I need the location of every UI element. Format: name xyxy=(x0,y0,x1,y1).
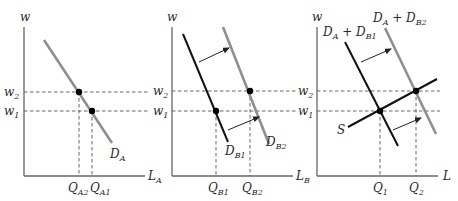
shift-arrow-lower xyxy=(228,117,259,130)
panel-total-market: w L w2 w1 Q1 Q2 DA + DB1 DA + DB2 S xyxy=(298,10,451,197)
quantity-label-qa1: QA1 xyxy=(90,181,111,197)
curve-label-db1: DB1 xyxy=(224,144,246,160)
equilibrium-point-b1 xyxy=(213,108,219,114)
y-axis-label: w xyxy=(312,10,323,24)
wage-label-w1: w1 xyxy=(153,104,168,120)
quantity-label-qb2: QB2 xyxy=(242,181,263,197)
curve-label-s: S xyxy=(337,123,345,137)
panel-sector-b: w LB w2 w1 QB1 QB2 DB1 DB2 xyxy=(153,10,310,197)
shift-arrow-upper xyxy=(361,49,391,62)
equilibrium-point-2 xyxy=(76,89,82,95)
equilibrium-point-b2 xyxy=(247,88,253,94)
demand-curve-db2 xyxy=(223,27,269,144)
x-axis-label: LA xyxy=(147,169,162,185)
equilibrium-point-1 xyxy=(89,108,95,114)
curve-label-db2: DB2 xyxy=(265,135,287,151)
x-axis-label: L xyxy=(442,169,451,183)
x-axis-label: LB xyxy=(295,169,310,185)
quantity-label-qb1: QB1 xyxy=(208,181,229,197)
curve-label-da-db2: DA + DB2 xyxy=(372,11,427,27)
quantity-label-qa2: QA2 xyxy=(68,181,89,197)
wage-label-w2: w2 xyxy=(153,84,168,100)
equilibrium-point-2 xyxy=(413,88,419,94)
equilibrium-point-1 xyxy=(377,108,383,114)
y-axis-label: w xyxy=(167,10,178,24)
labor-market-diagram: w LA w2 w1 QA2 QA1 DA w LB w2 w1 QB1 QB2 xyxy=(0,0,458,201)
quantity-label-q2: Q2 xyxy=(409,181,424,197)
wage-label-w1: w1 xyxy=(4,104,19,120)
shift-arrow-upper xyxy=(199,48,229,62)
shift-arrow-lower xyxy=(393,118,421,130)
supply-curve-s xyxy=(348,79,437,127)
y-axis-label: w xyxy=(20,10,31,24)
curve-label-da-db1: DA + DB1 xyxy=(322,25,377,41)
curve-label-da: DA xyxy=(109,147,126,163)
demand-curve-da-db2 xyxy=(385,28,436,134)
wage-label-w2: w2 xyxy=(298,84,313,100)
wage-label-w1: w1 xyxy=(298,104,313,120)
wage-label-w2: w2 xyxy=(4,85,19,101)
quantity-label-q1: Q1 xyxy=(373,181,388,197)
panel-sector-a: w LA w2 w1 QA2 QA1 DA xyxy=(4,10,162,197)
demand-curve-db1 xyxy=(183,34,228,142)
